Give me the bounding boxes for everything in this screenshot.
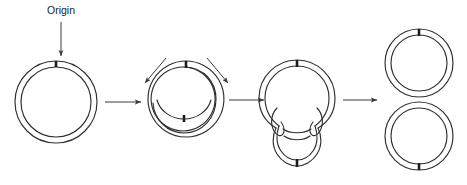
stage-2-replication-bubble-initiation [148, 61, 224, 137]
stage4-bottom-outer-strand [385, 102, 453, 170]
stage4-top-inner-strand [391, 35, 447, 91]
stage2-outer-strand [148, 61, 224, 137]
stage1-outer-strand [15, 61, 97, 143]
stage4-daughter-circle-top [385, 29, 453, 97]
stage-4-two-separated-daughter-circles [385, 29, 453, 170]
stage4-daughter-circle-bottom [385, 102, 453, 170]
dna-replication-diagram: Origin [0, 0, 467, 185]
stage3-neck-arc-lower [284, 136, 310, 140]
stage1-inner-strand [21, 67, 91, 137]
stage4-top-outer-strand [385, 29, 453, 97]
replication-figure-canvas: Origin [0, 0, 467, 185]
stage3-neck-arc-upper [283, 129, 311, 133]
replication-fork-arrow-left [145, 58, 166, 83]
stage-1-unreplicated-circular-chromosome [15, 61, 97, 143]
stage4-bottom-inner-strand [391, 108, 447, 164]
stage3-inner-strand-upper [265, 66, 329, 126]
origin-label: Origin [47, 4, 75, 16]
stage-3-theta-intermediate [259, 60, 335, 167]
